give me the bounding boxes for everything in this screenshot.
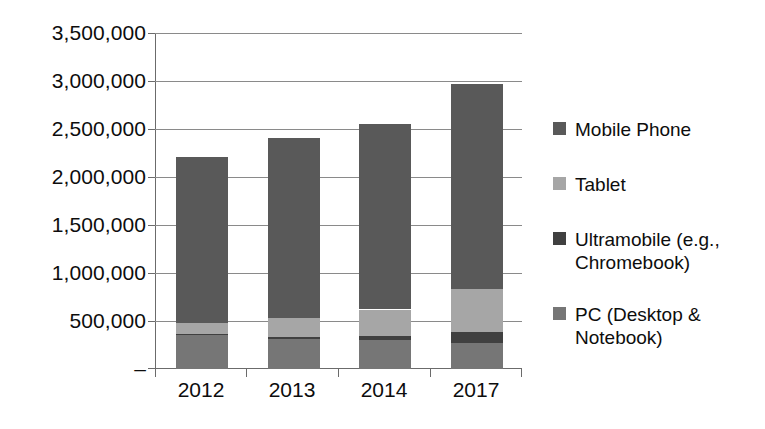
bar-segment[interactable] <box>451 332 503 344</box>
x-tickmark-2 <box>338 369 339 377</box>
x-tick-label-2017: 2017 <box>431 378 521 402</box>
bar-segment[interactable] <box>268 138 320 318</box>
legend-label-pc: PC (Desktop & Notebook) <box>575 303 701 349</box>
y-tick-label-2000000: 2,000,000 <box>52 166 146 187</box>
y-tick-label-1000000: 1,000,000 <box>52 262 146 283</box>
bar-segment[interactable] <box>176 335 228 369</box>
bar-group-2013 <box>268 33 320 369</box>
y-axis: 3,500,000 3,000,000 2,500,000 2,000,000 … <box>0 0 152 429</box>
y-tickmark-3500000 <box>148 33 155 34</box>
legend-item-tablet[interactable]: Tablet <box>553 173 765 196</box>
x-tickmark-1 <box>246 369 247 377</box>
y-tickmark-1000000 <box>148 273 155 274</box>
y-tickmark-zero <box>148 368 155 369</box>
bar-segment[interactable] <box>359 336 411 340</box>
y-tickmark-3000000 <box>148 81 155 82</box>
bar-segment[interactable] <box>268 318 320 337</box>
y-tick-label-3000000: 3,000,000 <box>52 70 146 91</box>
y-tick-label-1500000: 1,500,000 <box>52 214 146 235</box>
bar-segment[interactable] <box>451 343 503 369</box>
legend-label-tablet: Tablet <box>575 173 626 196</box>
legend-swatch-icon-mobile-phone <box>553 122 566 135</box>
bar-segment[interactable] <box>451 84 503 289</box>
x-tickmark-4 <box>521 369 522 377</box>
legend-label-ultramobile: Ultramobile (e.g., Chromebook) <box>575 228 720 274</box>
bar-segment[interactable] <box>359 124 411 309</box>
bar-segment[interactable] <box>176 323 228 335</box>
legend-label-mobile-phone: Mobile Phone <box>575 118 691 141</box>
stacked-bar-chart: 3,500,000 3,000,000 2,500,000 2,000,000 … <box>0 0 765 429</box>
bar-segment[interactable] <box>176 334 228 335</box>
bar-group-2012 <box>176 33 228 369</box>
y-tickmark-500000 <box>148 321 155 322</box>
x-axis: 2012 2013 2014 2017 <box>155 378 522 410</box>
legend-swatch-icon-ultramobile <box>553 232 566 245</box>
y-tick-label-500000: 500,000 <box>69 310 146 331</box>
x-tick-label-2013: 2013 <box>247 378 337 402</box>
x-tickmark-3 <box>430 369 431 377</box>
y-tick-label-2500000: 2,500,000 <box>52 118 146 139</box>
x-tick-label-2014: 2014 <box>339 378 429 402</box>
legend-item-pc[interactable]: PC (Desktop & Notebook) <box>553 303 765 349</box>
bar-segment[interactable] <box>268 339 320 369</box>
y-tickmark-2500000 <box>148 129 155 130</box>
legend-item-mobile-phone[interactable]: Mobile Phone <box>553 118 765 141</box>
bar-segment[interactable] <box>176 157 228 323</box>
bar-group-2017 <box>451 33 503 369</box>
plot-area <box>155 33 522 369</box>
legend-swatch-icon-tablet <box>553 177 566 190</box>
bar-segment[interactable] <box>359 310 411 337</box>
y-axis-line <box>155 33 156 369</box>
y-tickmark-1500000 <box>148 225 155 226</box>
legend-swatch-icon-pc <box>553 307 566 320</box>
y-tick-label-3500000: 3,500,000 <box>52 22 146 43</box>
bar-segment[interactable] <box>268 337 320 339</box>
legend-item-ultramobile[interactable]: Ultramobile (e.g., Chromebook) <box>553 228 765 274</box>
bar-segment[interactable] <box>359 340 411 369</box>
y-tick-label-zero: – <box>134 358 146 379</box>
bar-group-2014 <box>359 33 411 369</box>
x-tick-label-2012: 2012 <box>156 378 246 402</box>
y-tickmark-2000000 <box>148 177 155 178</box>
bar-segment[interactable] <box>451 289 503 331</box>
x-tickmark-0 <box>155 369 156 377</box>
